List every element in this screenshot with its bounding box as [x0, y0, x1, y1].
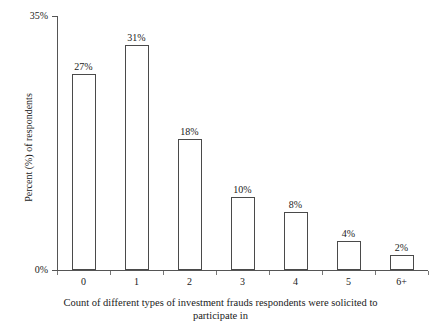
y-tick-mark-35 — [52, 16, 57, 17]
x-axis-line — [57, 270, 428, 271]
x-tick-label-0: 0 — [64, 276, 104, 288]
x-tick-mark — [322, 271, 323, 275]
bar-chart-figure: Percent (%) of respondents 35% 0% 27%31%… — [0, 0, 441, 333]
bar-value-label: 31% — [117, 32, 157, 43]
x-tick-mark — [110, 271, 111, 275]
bar-value-label: 10% — [223, 184, 263, 195]
bar-0[interactable] — [72, 74, 96, 270]
bar-value-label: 27% — [64, 61, 104, 72]
bar-6plus[interactable] — [390, 255, 414, 270]
y-tick-label-35: 35% — [14, 11, 48, 21]
x-axis-title-line-1: Count of different types of investment f… — [30, 296, 411, 309]
y-axis-title: Percent (%) of respondents — [23, 58, 34, 238]
x-tick-label-3: 3 — [223, 276, 263, 288]
x-tick-mark — [269, 271, 270, 275]
x-tick-label-1: 1 — [117, 276, 157, 288]
bar-value-label: 8% — [276, 199, 316, 210]
bar-5[interactable] — [337, 241, 361, 270]
x-tick-label-6plus: 6+ — [382, 276, 422, 288]
x-axis-title: Count of different types of investment f… — [30, 296, 411, 322]
x-axis-title-line-2: participate in — [30, 309, 411, 322]
bar-3[interactable] — [231, 197, 255, 270]
bar-value-label: 4% — [329, 228, 369, 239]
x-tick-mark — [428, 271, 429, 275]
x-tick-mark — [163, 271, 164, 275]
x-tick-mark — [216, 271, 217, 275]
x-tick-label-2: 2 — [170, 276, 210, 288]
y-axis-line — [57, 16, 58, 270]
x-tick-mark — [57, 271, 58, 275]
x-tick-label-4: 4 — [276, 276, 316, 288]
bar-1[interactable] — [125, 45, 149, 270]
bar-4[interactable] — [284, 212, 308, 270]
x-tick-label-5: 5 — [329, 276, 369, 288]
x-tick-mark — [375, 271, 376, 275]
bar-value-label: 2% — [382, 242, 422, 253]
y-tick-label-0: 0% — [14, 265, 48, 275]
bar-value-label: 18% — [170, 126, 210, 137]
bar-2[interactable] — [178, 139, 202, 270]
